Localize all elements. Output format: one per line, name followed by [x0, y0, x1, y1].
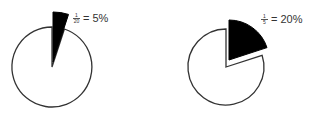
- denominator: 20: [74, 19, 80, 24]
- percent-text: = 20%: [271, 13, 303, 25]
- pie-slice-remainder: [12, 27, 92, 107]
- pie-slice-highlight: [229, 20, 267, 60]
- annotation-5-percent: 1 20 = 5%: [73, 12, 108, 24]
- annotation-20-percent: 1 5 = 20%: [261, 13, 303, 25]
- fraction: 1 20: [73, 13, 80, 24]
- fraction: 1 5: [261, 14, 268, 25]
- denominator: 5: [263, 20, 266, 25]
- percent-text: = 5%: [83, 12, 108, 24]
